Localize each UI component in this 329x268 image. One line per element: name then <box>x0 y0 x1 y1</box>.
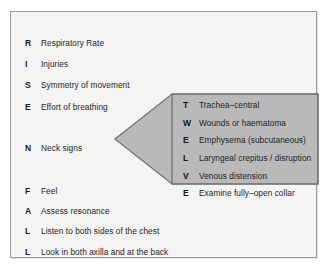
mnemonic-label: Injuries <box>41 59 68 69</box>
mnemonic-label: Neck signs <box>41 143 82 153</box>
figure-root: RRespiratory RateIInjuriesSSymmetry of m… <box>0 0 329 268</box>
callout-mnemonic-label: Venous distension <box>199 171 267 181</box>
mnemonic-label: Respiratory Rate <box>41 38 104 48</box>
list-item: IInjuries <box>25 57 68 70</box>
callout-mnemonic-letter: V <box>183 171 199 181</box>
callout-mnemonic-label: Examine fully–open collar <box>199 188 295 198</box>
callout-mnemonic-label: Emphysema (subcutaneous) <box>199 135 306 145</box>
chart-panel: RRespiratory RateIInjuriesSSymmetry of m… <box>10 11 317 258</box>
list-item: LListen to both sides of the chest <box>25 224 159 237</box>
mnemonic-label: Assess resonance <box>41 206 110 216</box>
callout-list-item: EEmphysema (subcutaneous) <box>183 133 306 146</box>
callout-list-item: WWounds or haematoma <box>183 116 286 129</box>
callout-mnemonic-label: Wounds or haematoma <box>199 118 286 128</box>
neck-signs-callout: TTrachea–centralWWounds or haematomaEEmp… <box>104 83 319 195</box>
mnemonic-letter: S <box>25 80 41 90</box>
callout-mnemonic-label: Trachea–central <box>199 100 259 110</box>
callout-mnemonic-letter: E <box>183 188 199 198</box>
list-item: LLook in both axilla and at the back <box>25 245 168 258</box>
callout-list-item: LLaryngeal crepitus / disruption <box>183 151 311 164</box>
mnemonic-letter: I <box>25 59 41 69</box>
mnemonic-letter: N <box>25 143 41 153</box>
mnemonic-label: Effort of breathing <box>41 102 108 112</box>
callout-mnemonic-letter: W <box>183 118 199 128</box>
mnemonic-letter: E <box>25 102 41 112</box>
callout-mnemonic-label: Laryngeal crepitus / disruption <box>199 153 311 163</box>
callout-mnemonic-letter: L <box>183 153 199 163</box>
callout-mnemonic-list: TTrachea–centralWWounds or haematomaEEmp… <box>104 83 319 195</box>
mnemonic-letter: L <box>25 226 41 236</box>
list-item: RRespiratory Rate <box>25 36 104 49</box>
mnemonic-letter: A <box>25 206 41 216</box>
list-item: AAssess resonance <box>25 204 110 217</box>
mnemonic-label: Look in both axilla and at the back <box>41 247 168 257</box>
callout-list-item: TTrachea–central <box>183 98 259 111</box>
list-item: NNeck signs <box>25 141 82 154</box>
mnemonic-letter: F <box>25 186 41 196</box>
list-item: FFeel <box>25 184 57 197</box>
list-item: EEffort of breathing <box>25 100 108 113</box>
callout-list-item: VVenous distension <box>183 169 267 182</box>
callout-mnemonic-letter: E <box>183 135 199 145</box>
callout-mnemonic-letter: T <box>183 100 199 110</box>
mnemonic-label: Feel <box>41 186 57 196</box>
mnemonic-letter: L <box>25 247 41 257</box>
callout-list-item: EExamine fully–open collar <box>183 186 295 199</box>
mnemonic-letter: R <box>25 38 41 48</box>
mnemonic-label: Listen to both sides of the chest <box>41 226 159 236</box>
